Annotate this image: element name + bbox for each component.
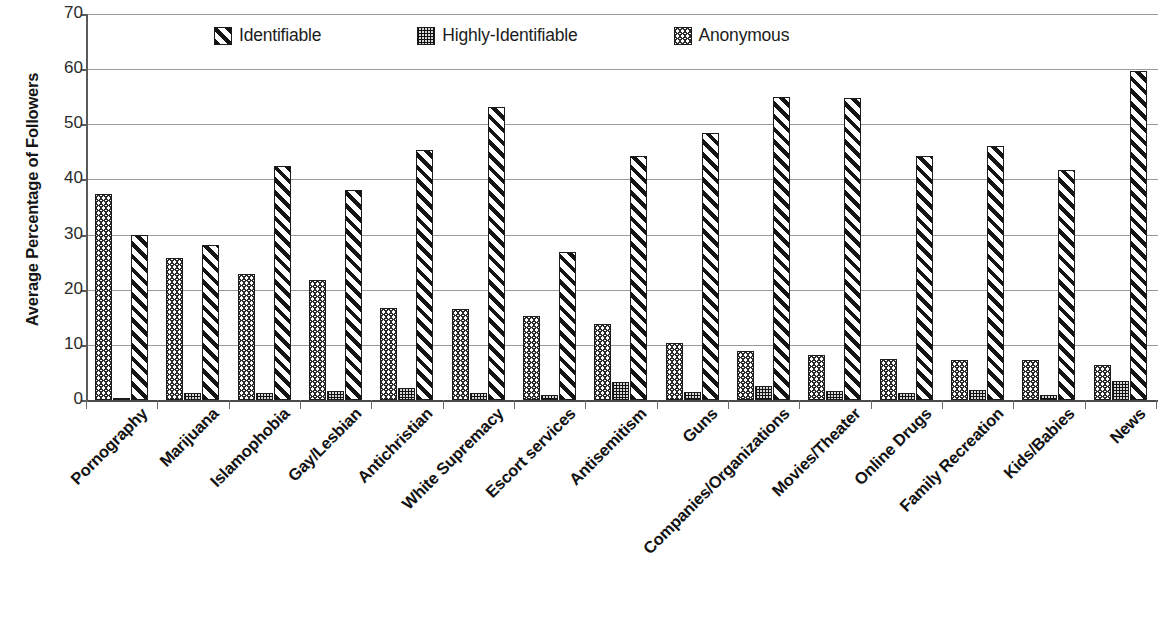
bar-anonymous xyxy=(523,316,540,400)
bar-anonymous xyxy=(1022,360,1039,400)
y-tick-label-70: 70 xyxy=(37,3,83,23)
bar-chart: Average Percentage of Followers 70605040… xyxy=(0,0,1161,619)
bar-highly xyxy=(826,391,843,400)
bar-group xyxy=(443,14,514,400)
bar-anonymous xyxy=(452,309,469,400)
bar-group xyxy=(514,14,585,400)
y-tick-label-40: 40 xyxy=(37,168,83,188)
y-tick-label-30: 30 xyxy=(37,224,83,244)
chart-legend: IdentifiableHighly-IdentifiableAnonymous xyxy=(214,25,885,46)
bar-anonymous xyxy=(808,355,825,400)
bar-highly xyxy=(1112,381,1129,400)
bar-anonymous xyxy=(238,274,255,400)
bar-highly xyxy=(969,390,986,400)
bar-identifiable xyxy=(773,97,790,400)
bar-identifiable xyxy=(630,156,647,400)
bar-anonymous xyxy=(737,351,754,400)
x-axis-label: News xyxy=(1106,404,1149,447)
bar-identifiable xyxy=(1058,170,1075,400)
bar-group xyxy=(371,14,442,400)
legend-label: Highly-Identifiable xyxy=(442,25,577,46)
bar-highly xyxy=(398,388,415,400)
bar-identifiable xyxy=(916,156,933,400)
bar-identifiable xyxy=(702,133,719,400)
bar-identifiable xyxy=(274,166,291,400)
bar-group xyxy=(157,14,228,400)
y-tick-label-20: 20 xyxy=(37,279,83,299)
zigzag-swatch xyxy=(674,27,692,45)
bar-highly xyxy=(184,393,201,400)
bar-anonymous xyxy=(1094,365,1111,400)
bar-groups xyxy=(86,14,1156,400)
bar-anonymous xyxy=(166,258,183,400)
bar-identifiable xyxy=(131,235,148,400)
legend-item: Identifiable xyxy=(214,25,321,46)
x-axis-label: Pornography xyxy=(67,404,151,488)
y-tick-label-0: 0 xyxy=(37,389,83,409)
bar-highly xyxy=(327,391,344,400)
bar-anonymous xyxy=(309,280,326,400)
y-tick-label-50: 50 xyxy=(37,113,83,133)
diagonal-stripe-swatch xyxy=(214,27,232,45)
bar-group xyxy=(657,14,728,400)
bar-group xyxy=(1085,14,1156,400)
bar-group xyxy=(229,14,300,400)
bar-identifiable xyxy=(416,150,433,400)
legend-item: Anonymous xyxy=(674,25,790,46)
x-axis-label: Marijuana xyxy=(156,404,223,471)
bar-highly xyxy=(755,386,772,400)
bar-highly xyxy=(898,393,915,400)
bar-anonymous xyxy=(594,324,611,400)
bar-anonymous xyxy=(951,360,968,400)
bar-anonymous xyxy=(380,308,397,400)
bar-group xyxy=(799,14,870,400)
bar-group xyxy=(942,14,1013,400)
bar-anonymous xyxy=(95,194,112,400)
bar-identifiable xyxy=(987,146,1004,400)
bar-identifiable xyxy=(1130,71,1147,400)
bar-highly xyxy=(470,393,487,400)
bar-identifiable xyxy=(488,107,505,400)
y-tick-label-10: 10 xyxy=(37,334,83,354)
bar-highly xyxy=(684,392,701,400)
bar-group xyxy=(86,14,157,400)
bar-group xyxy=(300,14,371,400)
legend-label: Anonymous xyxy=(699,25,790,46)
legend-item: Highly-Identifiable xyxy=(417,25,577,46)
bar-group xyxy=(871,14,942,400)
dotted-swatch xyxy=(417,27,435,45)
legend-label: Identifiable xyxy=(239,25,321,46)
bar-anonymous xyxy=(666,343,683,400)
bar-identifiable xyxy=(844,98,861,400)
x-axis-labels: PornographyMarijuanaIslamophobiaGay/Lesb… xyxy=(86,404,1156,604)
x-axis-label: Guns xyxy=(679,404,722,447)
bar-highly xyxy=(256,393,273,400)
x-axis-label: Companies/Organizations xyxy=(639,404,793,558)
x-tick xyxy=(1156,400,1157,409)
x-axis-label: Kids/Babies xyxy=(1000,404,1079,483)
bar-highly xyxy=(612,382,629,400)
bar-group xyxy=(585,14,656,400)
y-tick-label-60: 60 xyxy=(37,58,83,78)
bar-identifiable xyxy=(202,245,219,400)
bar-identifiable xyxy=(559,252,576,400)
bar-group xyxy=(728,14,799,400)
bar-identifiable xyxy=(345,190,362,400)
bar-anonymous xyxy=(880,359,897,400)
bar-group xyxy=(1013,14,1084,400)
